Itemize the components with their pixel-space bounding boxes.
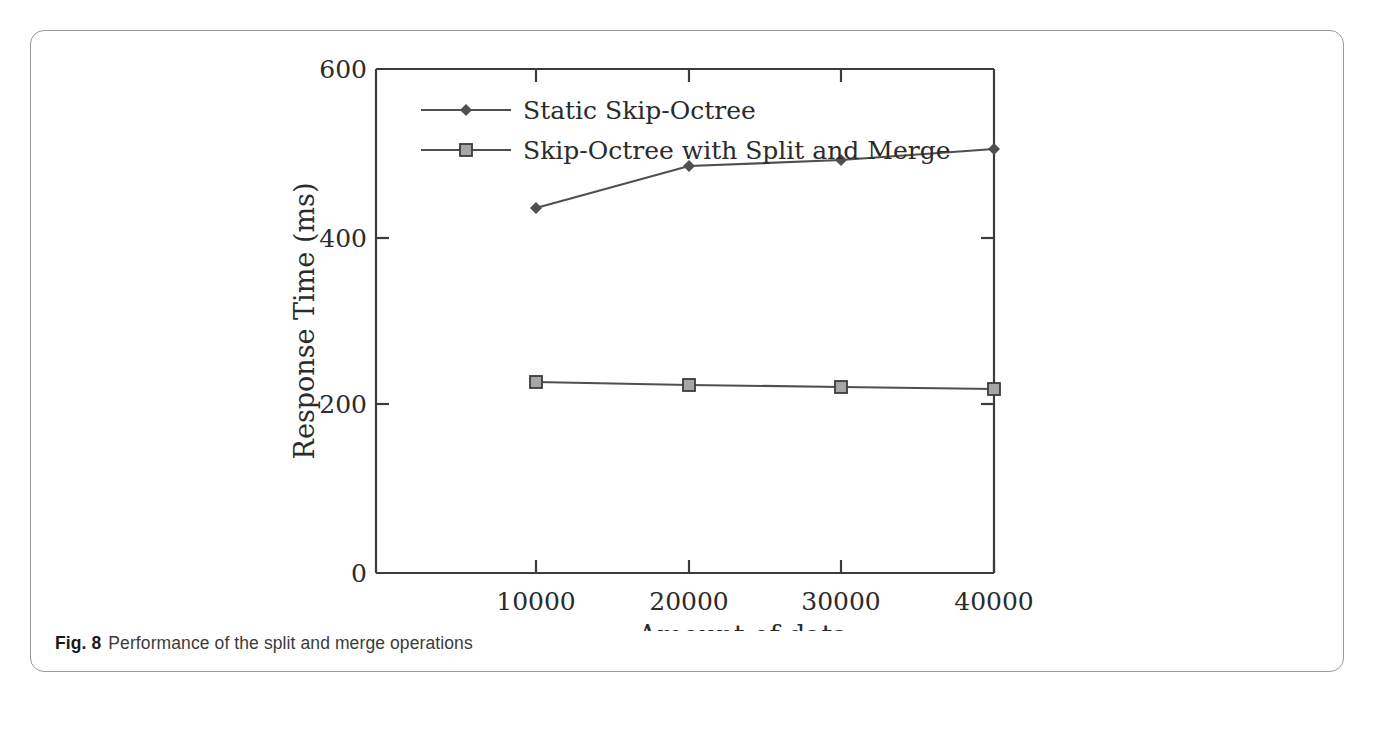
legend-diamond-icon	[460, 104, 472, 116]
x-tick-label-10000: 10000	[496, 587, 576, 616]
figure-caption-text: Performance of the split and merge opera…	[108, 633, 472, 654]
data-point-marker	[683, 379, 695, 391]
figure-card: 600 400 200 0 10000 20000 30000 40000 Re…	[30, 30, 1344, 672]
data-point-marker	[530, 202, 542, 214]
legend-item-static-skip-octree: Static Skip-Octree	[421, 96, 756, 125]
x-tick-label-20000: 20000	[649, 587, 729, 616]
x-tick-label-30000: 30000	[801, 587, 881, 616]
legend-item-skip-octree-split-merge: Skip-Octree with Split and Merge	[421, 136, 950, 165]
legend-square-icon	[460, 144, 472, 156]
data-point-marker	[835, 381, 847, 393]
x-tick-labels: 10000 20000 30000 40000	[496, 587, 1034, 616]
data-point-marker	[988, 143, 1000, 155]
chart-legend: Static Skip-Octree Skip-Octree with Spli…	[421, 96, 950, 165]
y-tick-label-400: 400	[319, 224, 367, 253]
legend-label-skip-octree-split-merge: Skip-Octree with Split and Merge	[523, 136, 950, 165]
y-tick-labels: 600 400 200 0	[319, 55, 367, 588]
y-tick-label-0: 0	[351, 559, 367, 588]
figure-caption: Fig. 8 Performance of the split and merg…	[55, 623, 1315, 663]
data-point-marker	[988, 383, 1000, 395]
series-skip-octree-split-merge	[530, 376, 1000, 395]
x-tick-label-40000: 40000	[954, 587, 1034, 616]
figure-caption-label: Fig. 8	[55, 633, 101, 654]
y-tick-label-600: 600	[319, 55, 367, 84]
data-point-marker	[530, 376, 542, 388]
y-tick-label-200: 200	[319, 390, 367, 419]
response-time-line-chart: 600 400 200 0 10000 20000 30000 40000 Re…	[31, 31, 1345, 631]
chart-plot-area: 600 400 200 0 10000 20000 30000 40000 Re…	[31, 31, 1345, 631]
y-axis-title: Response Time (ms)	[289, 183, 320, 460]
legend-label-static-skip-octree: Static Skip-Octree	[523, 96, 756, 125]
